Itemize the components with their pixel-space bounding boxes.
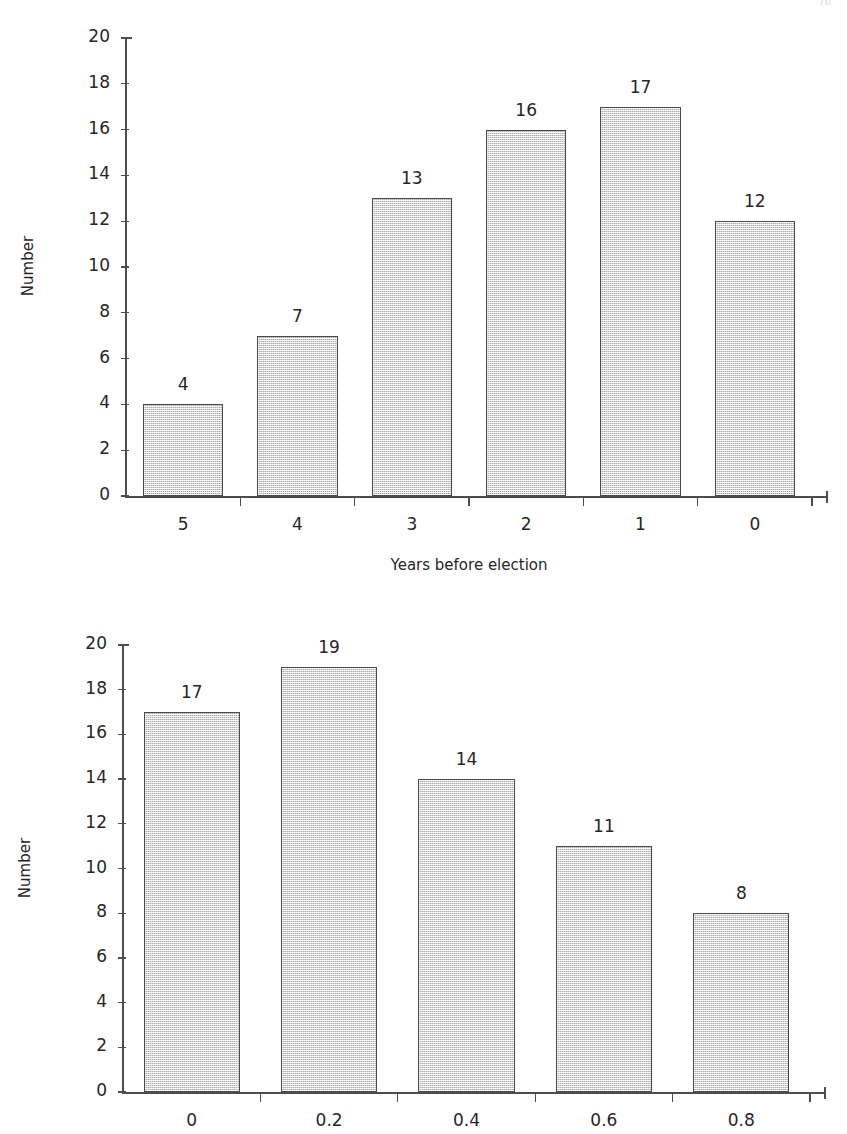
y-axis-tick-label: 6 bbox=[45, 946, 107, 966]
y-axis-tick bbox=[118, 823, 126, 824]
y-axis-tick bbox=[121, 358, 129, 359]
x-axis-tick bbox=[397, 1093, 398, 1102]
y-axis-tick bbox=[118, 734, 126, 735]
x-axis-tick bbox=[697, 497, 698, 506]
bar[interactable] bbox=[715, 221, 795, 496]
bar-value-label: 13 bbox=[355, 168, 469, 188]
y-axis-tick-label: 16 bbox=[48, 118, 110, 138]
x-axis-category-label: 4 bbox=[240, 514, 354, 534]
x-axis-category-label: 0.8 bbox=[673, 1110, 810, 1130]
y-axis-tick-label: 4 bbox=[48, 392, 110, 412]
bar-value-label: 12 bbox=[698, 191, 812, 211]
x-axis-line bbox=[125, 496, 827, 498]
y-axis-tick bbox=[121, 450, 129, 451]
y-axis-tick-label: 12 bbox=[48, 209, 110, 229]
bar-value-label: 19 bbox=[260, 637, 397, 657]
x-axis-category-label: 1 bbox=[583, 514, 697, 534]
x-axis-tick bbox=[468, 497, 469, 506]
bar-value-label: 14 bbox=[398, 749, 535, 769]
x-axis-category-label: 2 bbox=[469, 514, 583, 534]
y-axis-tick-label: 20 bbox=[48, 26, 110, 46]
y-axis-tick bbox=[118, 913, 126, 914]
x-axis-tick bbox=[240, 497, 241, 506]
y-axis-tick-label: 12 bbox=[45, 812, 107, 832]
x-axis-line bbox=[122, 1092, 825, 1094]
x-axis-category-label: 0.4 bbox=[398, 1110, 535, 1130]
x-axis-tick bbox=[811, 497, 812, 506]
x-axis-tick bbox=[354, 497, 355, 506]
bar[interactable] bbox=[486, 130, 566, 496]
x-axis-end-cap bbox=[824, 1087, 826, 1099]
x-axis-tick bbox=[260, 1093, 261, 1102]
y-axis-tick bbox=[121, 495, 129, 496]
y-axis-tick bbox=[121, 221, 129, 222]
bar-value-label: 4 bbox=[126, 374, 240, 394]
y-axis-tick bbox=[118, 778, 126, 779]
x-axis-tick bbox=[583, 497, 584, 506]
bar[interactable] bbox=[556, 846, 652, 1092]
bar[interactable] bbox=[418, 779, 514, 1092]
x-axis-tick bbox=[809, 1093, 810, 1102]
x-axis-category-label: 5 bbox=[126, 514, 240, 534]
x-axis-category-label: 0 bbox=[698, 514, 812, 534]
y-axis-tick-label: 0 bbox=[48, 484, 110, 504]
y-axis-top-cap bbox=[121, 37, 132, 39]
y-axis-tick bbox=[118, 1091, 126, 1092]
y-axis-tick bbox=[118, 957, 126, 958]
x-axis-tick bbox=[672, 1093, 673, 1102]
y-axis-tick-label: 6 bbox=[48, 347, 110, 367]
y-axis-tick-label: 10 bbox=[45, 857, 107, 877]
y-axis-tick bbox=[121, 83, 129, 84]
y-axis-title: Number bbox=[19, 186, 37, 346]
y-axis-tick-label: 8 bbox=[45, 901, 107, 921]
bar[interactable] bbox=[372, 198, 452, 496]
y-axis-tick-label: 16 bbox=[45, 722, 107, 742]
y-axis-tick-label: 8 bbox=[48, 301, 110, 321]
bar-value-label: 8 bbox=[673, 883, 810, 903]
bar[interactable] bbox=[693, 913, 789, 1092]
y-axis-tick bbox=[118, 1047, 126, 1048]
bar-value-label: 7 bbox=[240, 306, 354, 326]
bar-value-label: 11 bbox=[535, 816, 672, 836]
y-axis-tick bbox=[121, 175, 129, 176]
x-axis-category-label: 0.6 bbox=[535, 1110, 672, 1130]
y-axis-tick bbox=[121, 266, 129, 267]
y-axis-tick bbox=[118, 868, 126, 869]
y-axis-tick-label: 18 bbox=[45, 678, 107, 698]
bar-value-label: 17 bbox=[583, 77, 697, 97]
bar-value-label: 16 bbox=[469, 100, 583, 120]
page-header-remnant: ly bbox=[820, 0, 831, 5]
y-axis-tick-label: 10 bbox=[48, 255, 110, 275]
x-axis-category-label: 0.2 bbox=[260, 1110, 397, 1130]
y-axis-tick bbox=[118, 1002, 126, 1003]
y-axis-tick bbox=[121, 404, 129, 405]
x-axis-category-label: 3 bbox=[355, 514, 469, 534]
y-axis-tick-label: 2 bbox=[45, 1035, 107, 1055]
y-axis-tick-label: 18 bbox=[48, 72, 110, 92]
bar[interactable] bbox=[144, 712, 240, 1092]
y-axis-tick-label: 14 bbox=[45, 767, 107, 787]
x-axis-title: Years before election bbox=[126, 556, 812, 574]
y-axis-title: Number bbox=[16, 788, 34, 948]
y-axis-tick-label: 14 bbox=[48, 163, 110, 183]
y-axis-tick-label: 2 bbox=[48, 438, 110, 458]
y-axis-tick bbox=[121, 312, 129, 313]
y-axis-tick-label: 4 bbox=[45, 991, 107, 1011]
y-axis-tick-label: 0 bbox=[45, 1080, 107, 1100]
x-axis-tick bbox=[535, 1093, 536, 1102]
y-axis-tick bbox=[121, 129, 129, 130]
bar-value-label: 17 bbox=[123, 682, 260, 702]
bar[interactable] bbox=[281, 667, 377, 1092]
y-axis-top-cap bbox=[118, 644, 129, 646]
x-axis-category-label: 0 bbox=[123, 1110, 260, 1130]
x-axis-end-cap bbox=[826, 491, 828, 503]
bar[interactable] bbox=[143, 404, 223, 496]
y-axis-tick-label: 20 bbox=[45, 633, 107, 653]
bar[interactable] bbox=[257, 336, 337, 496]
bar[interactable] bbox=[600, 107, 680, 496]
